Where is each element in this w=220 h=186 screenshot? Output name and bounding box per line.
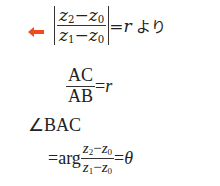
angle-label: ∠BAC — [28, 114, 81, 136]
denominator: z1−z0 — [57, 26, 106, 45]
modulus-equation: z2−z0 z1−z0 = r より — [54, 6, 166, 45]
ratio-equation: AC AB =r — [66, 66, 112, 107]
left-arrow-icon — [28, 22, 44, 32]
fraction: z2−z0 z1−z0 — [57, 6, 106, 45]
numerator: z2−z0 — [57, 6, 106, 25]
japanese-suffix: より — [136, 15, 166, 36]
fraction: z2−z0 z1−z0 — [81, 140, 114, 177]
fraction: AC AB — [66, 66, 95, 107]
absolute-value: z2−z0 z1−z0 — [54, 6, 109, 45]
argument-equation: =arg z2−z0 z1−z0 =θ — [48, 140, 133, 177]
